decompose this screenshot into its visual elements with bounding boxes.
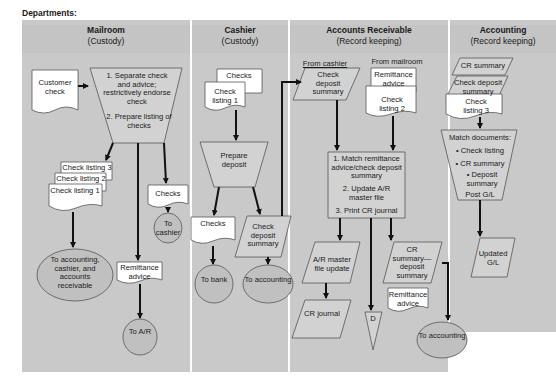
- remittance-advice-label-mailroom: Remittance advice: [117, 264, 162, 281]
- ar-process-step-1: 1. Match remittance advice/check deposit…: [330, 155, 403, 181]
- post-gl-label: Post G/L: [460, 191, 500, 200]
- updated-gl-label: Updated G/L: [474, 250, 512, 267]
- mailroom-process-step-2: 2. Prepare listing of checks: [106, 113, 172, 130]
- ar-process-step-3: 3. Print CR journal: [330, 207, 403, 216]
- ar-master-file-update-label: A/R master file update: [310, 256, 354, 273]
- check-deposit-summary-label-ar: Check deposit summary: [308, 71, 348, 97]
- check-listing-1-label-cashier: Check listing 1: [207, 88, 243, 105]
- match-bullet-cr-summary: • CR summary: [446, 160, 514, 169]
- mailroom-process-step-1: 1. Separate check and advice; restrictiv…: [100, 72, 174, 106]
- checks-label-mailroom: Checks: [148, 190, 188, 199]
- to-accounting-label-cashier: To accounting: [244, 276, 292, 285]
- ar-process-step-2: 2. Update A/R master file: [334, 185, 399, 202]
- prepare-deposit-label: Prepare deposit: [212, 152, 256, 169]
- cr-journal-io: [292, 300, 351, 338]
- check-listing-2-label: Check listing 2: [55, 175, 107, 184]
- check-deposit-summary-label-accounting: Check deposit summary: [452, 79, 504, 96]
- match-bullet-check-listing: • Check listing: [446, 147, 514, 156]
- check-listing-2-label-ar: Check listing 2: [372, 96, 412, 113]
- to-ar-terminal: [123, 319, 157, 355]
- cr-summary-deposit-summary-label: CR summary— deposit summary: [390, 246, 434, 280]
- check-listing-3-label-accounting: Check listing 3: [456, 98, 496, 115]
- match-bullet-deposit-summary: • Deposit summary: [462, 171, 502, 188]
- to-bank-label: To bank: [200, 276, 228, 285]
- to-accounting-cashier-ar-label: To accounting, cashier, and accounts rec…: [45, 256, 105, 290]
- check-listing-3-label: Check listing 3: [61, 164, 113, 173]
- from-cashier-label: From cashier: [290, 60, 360, 69]
- check-deposit-summary-label-cashier: Check deposit summary: [240, 223, 286, 249]
- to-cashier-label: To cashier: [154, 220, 182, 237]
- to-accounting-label-ar: To accounting: [418, 332, 466, 341]
- checks-label-cashier-out: Checks: [193, 220, 233, 229]
- file-d-label: D: [366, 315, 380, 324]
- customer-check-label: Customer check: [34, 79, 76, 96]
- match-documents-label: Match documents:: [446, 134, 514, 143]
- from-mailroom-label: From mailroom: [366, 58, 428, 67]
- remittance-advice-label-ar: Remittance advice: [371, 71, 416, 88]
- to-ar-label: To A/R: [128, 328, 152, 337]
- checks-label-cashier-in: Checks: [219, 72, 259, 81]
- remittance-advice-label-ar-out: Remittance advice: [388, 291, 428, 308]
- cr-journal-label: CR journal: [302, 310, 342, 319]
- cr-summary-label: CR summary: [456, 62, 510, 71]
- check-listing-1-label: Check listing 1: [49, 187, 101, 196]
